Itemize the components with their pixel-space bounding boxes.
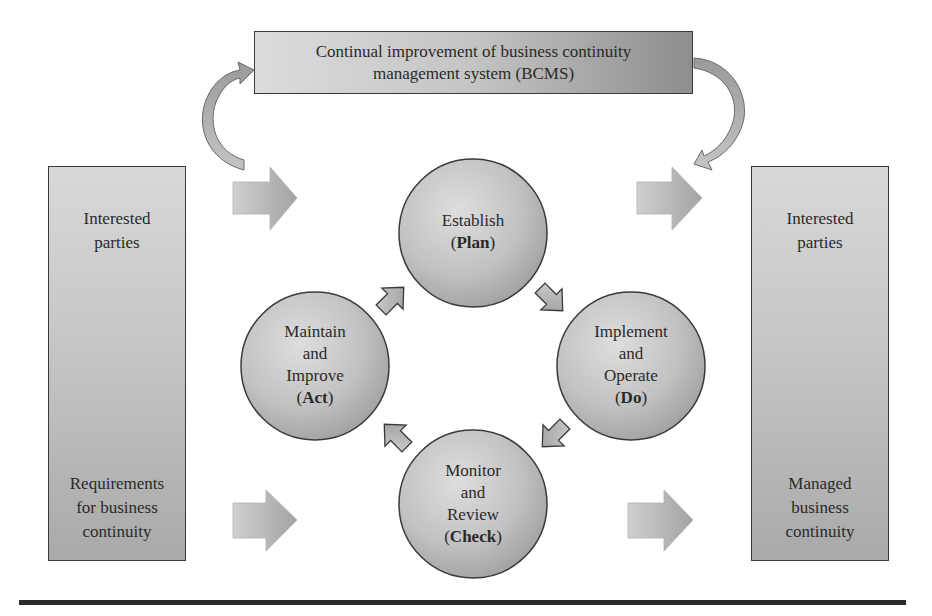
- input-box-bottom-label: Requirements for business continuity: [49, 472, 185, 544]
- phase-name: Plan: [456, 233, 489, 252]
- curved-arrow-right-icon: [694, 58, 745, 170]
- label-line: Requirements: [49, 472, 185, 496]
- cycle-arrow-do-to-check-icon: [532, 413, 576, 457]
- curved-arrow-left-icon: [202, 62, 254, 170]
- label-line: continuity: [752, 520, 888, 544]
- phase-name: Check: [450, 527, 496, 546]
- label-line: Maintain: [241, 321, 389, 343]
- block-arrow-bottom-right-icon: [628, 490, 693, 551]
- block-arrow-top-left-icon: [233, 167, 297, 230]
- block-arrow-bottom-left-icon: [233, 490, 297, 551]
- phase-line: (Do): [557, 387, 705, 409]
- phase-line: (Check): [399, 526, 547, 548]
- label-line: and: [557, 343, 705, 365]
- label-line: Interested: [752, 207, 888, 231]
- act-label: Maintain and Improve (Act): [241, 321, 389, 409]
- label-line: and: [399, 482, 547, 504]
- label-line: Interested: [49, 207, 185, 231]
- output-box-top-label: Interested parties: [752, 207, 888, 255]
- label-line: Operate: [557, 365, 705, 387]
- do-label: Implement and Operate (Do): [557, 321, 705, 409]
- input-box-top-label: Interested parties: [49, 207, 185, 255]
- bcms-improvement-box: Continual improvement of business contin…: [254, 31, 693, 94]
- label-line: continuity: [49, 520, 185, 544]
- label-line: Improve: [241, 365, 389, 387]
- output-box-bottom-label: Managed business continuity: [752, 472, 888, 544]
- output-box: Interested parties Managed business cont…: [751, 166, 889, 561]
- bcms-title-line-2: management system (BCMS): [373, 63, 574, 85]
- plan-label: Establish (Plan): [399, 210, 547, 254]
- cycle-arrow-act-to-plan-icon: [370, 277, 414, 321]
- label-line: for business: [49, 496, 185, 520]
- phase-line: (Plan): [399, 232, 547, 254]
- label-line: Establish: [399, 210, 547, 232]
- phase-name: Do: [621, 388, 642, 407]
- block-arrow-top-right-icon: [637, 167, 702, 230]
- cycle-arrow-check-to-act-icon: [374, 414, 418, 458]
- label-line: parties: [752, 231, 888, 255]
- label-line: and: [241, 343, 389, 365]
- label-line: parties: [49, 231, 185, 255]
- label-line: business: [752, 496, 888, 520]
- label-line: Implement: [557, 321, 705, 343]
- input-box: Interested parties Requirements for busi…: [48, 166, 186, 561]
- phase-line: (Act): [241, 387, 389, 409]
- bottom-divider: [19, 600, 906, 605]
- label-line: Managed: [752, 472, 888, 496]
- label-line: Review: [399, 504, 547, 526]
- phase-name: Act: [302, 388, 327, 407]
- label-line: Monitor: [399, 460, 547, 482]
- check-label: Monitor and Review (Check): [399, 460, 547, 548]
- cycle-arrow-plan-to-do-icon: [529, 277, 573, 321]
- bcms-title-line-1: Continual improvement of business contin…: [316, 41, 631, 63]
